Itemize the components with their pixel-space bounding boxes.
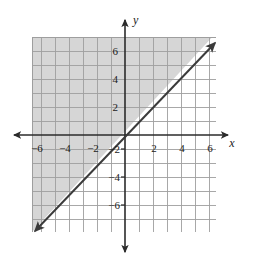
x-tick-label-neg4: −4 [59,142,71,154]
x-tick-label-neg2: −2 [87,142,99,154]
x-tick-label-neg6: −6 [31,142,43,154]
x-axis-label: x [228,136,235,150]
y-tick-label-neg2: −2 [108,143,120,155]
x-tick-label-4: 4 [179,142,185,154]
x-tick-label-2: 2 [151,142,157,154]
y-tick-label-6: 6 [113,45,119,57]
y-tick-label-2: 2 [113,101,119,113]
y-tick-label-neg6: −6 [108,199,120,211]
coordinate-plane-figure: −6 −4 −2 2 4 6 6 4 2 −2 −4 −6 y x [0,0,253,261]
x-tick-label-6: 6 [207,142,213,154]
y-tick-label-4: 4 [113,73,119,85]
y-axis-label: y [132,13,139,27]
y-tick-label-neg4: −4 [108,171,120,183]
graph-canvas: −6 −4 −2 2 4 6 6 4 2 −2 −4 −6 y x [0,0,253,261]
